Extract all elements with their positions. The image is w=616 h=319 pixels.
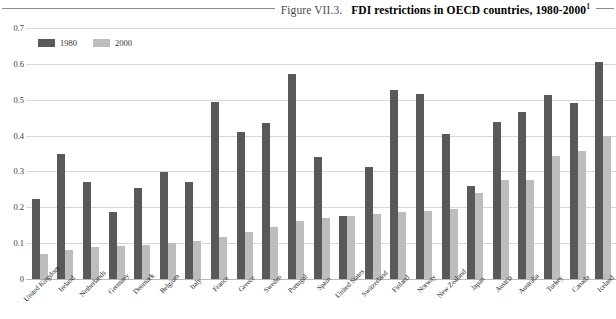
- bar-2000[interactable]: [552, 156, 560, 279]
- bar-1980[interactable]: [185, 182, 193, 279]
- y-axis-tick-label: 0.7: [2, 23, 24, 33]
- legend-item[interactable]: 1980: [38, 38, 77, 48]
- bar-group: [309, 28, 335, 279]
- bar-group: [514, 28, 540, 279]
- bar-1980[interactable]: [442, 134, 450, 279]
- x-label-cell: Netherlands: [77, 280, 103, 319]
- bar-2000[interactable]: [347, 216, 355, 279]
- figure-title-text: FDI restrictions in OECD countries, 1980…: [351, 3, 586, 15]
- bar-1980[interactable]: [518, 112, 526, 279]
- x-label-cell: Turkey: [539, 280, 565, 319]
- bar-2000[interactable]: [296, 221, 304, 279]
- bar-group: [283, 28, 309, 279]
- x-label-cell: Switzerland: [360, 280, 386, 319]
- bar-group: [590, 28, 616, 279]
- bar-1980[interactable]: [339, 216, 347, 279]
- page-title: Figure VII.3. FDI restrictions in OECD c…: [281, 2, 590, 16]
- bar-group: [334, 28, 360, 279]
- bar-2000[interactable]: [270, 227, 278, 279]
- bars-group: [26, 28, 616, 279]
- y-axis-tick-label: 0.4: [2, 131, 24, 141]
- bar-2000[interactable]: [526, 180, 534, 279]
- bar-1980[interactable]: [57, 154, 65, 279]
- legend-item[interactable]: 2000: [93, 38, 132, 48]
- y-axis-tick-label: 0.3: [2, 166, 24, 176]
- x-label-cell: New Zealand: [437, 280, 463, 319]
- x-label-cell: United Kingdom: [26, 280, 52, 319]
- x-label-cell: Iceland: [590, 280, 616, 319]
- bar-2000[interactable]: [373, 214, 381, 279]
- bar-2000[interactable]: [578, 151, 586, 279]
- bar-1980[interactable]: [365, 167, 373, 279]
- bar-1980[interactable]: [237, 132, 245, 279]
- bar-group: [462, 28, 488, 279]
- x-label-cell: Spain: [308, 280, 334, 319]
- x-label-cell: Norway: [411, 280, 437, 319]
- plot-area: 0.70.60.50.40.30.20.10: [26, 28, 616, 279]
- y-axis-tick-label: 0.6: [2, 59, 24, 69]
- title-rule-right: [596, 8, 614, 9]
- x-label-cell: France: [206, 280, 232, 319]
- legend-swatch-icon: [93, 39, 110, 47]
- bar-group: [53, 28, 79, 279]
- bar-2000[interactable]: [193, 241, 201, 279]
- bar-1980[interactable]: [32, 199, 40, 279]
- bar-1980[interactable]: [390, 90, 398, 279]
- bar-2000[interactable]: [245, 232, 253, 279]
- bar-1980[interactable]: [288, 74, 296, 279]
- x-label-cell: United States: [334, 280, 360, 319]
- bar-1980[interactable]: [134, 188, 142, 279]
- bar-1980[interactable]: [160, 172, 168, 279]
- footnote-marker: 1: [586, 2, 590, 11]
- bar-1980[interactable]: [493, 122, 501, 279]
- bar-1980[interactable]: [314, 157, 322, 279]
- bar-group: [27, 28, 53, 279]
- x-axis-tick-labels: United KingdomIrelandNetherlandsGermanyD…: [26, 280, 616, 319]
- bar-1980[interactable]: [211, 102, 219, 279]
- x-label-cell: Greece: [231, 280, 257, 319]
- bar-group: [78, 28, 104, 279]
- legend-swatch-icon: [38, 39, 55, 47]
- bar-2000[interactable]: [450, 209, 458, 279]
- x-label-cell: Sweden: [257, 280, 283, 319]
- bar-1980[interactable]: [416, 94, 424, 279]
- x-label-cell: Italy: [180, 280, 206, 319]
- bar-2000[interactable]: [603, 136, 611, 279]
- y-axis-tick-label: 0: [2, 274, 24, 284]
- legend-label: 2000: [115, 38, 132, 48]
- bar-2000[interactable]: [475, 193, 483, 279]
- bar-1980[interactable]: [83, 182, 91, 279]
- bar-2000[interactable]: [322, 218, 330, 279]
- bar-group: [411, 28, 437, 279]
- bar-group: [386, 28, 412, 279]
- bar-group: [104, 28, 130, 279]
- title-rule-left: [2, 8, 275, 9]
- bar-group: [181, 28, 207, 279]
- chart-container: 0.70.60.50.40.30.20.10 19802000 United K…: [0, 17, 616, 319]
- bar-group: [232, 28, 258, 279]
- bar-group: [206, 28, 232, 279]
- bar-2000[interactable]: [219, 237, 227, 279]
- bar-1980[interactable]: [467, 186, 475, 279]
- bar-1980[interactable]: [570, 103, 578, 279]
- y-axis-tick-label: 0.1: [2, 238, 24, 248]
- chart-legend: 19802000: [38, 38, 132, 48]
- x-label-cell: Austria: [488, 280, 514, 319]
- bar-1980[interactable]: [595, 62, 603, 279]
- y-axis-tick-label: 0.2: [2, 202, 24, 212]
- bar-group: [437, 28, 463, 279]
- legend-label: 1980: [60, 38, 77, 48]
- x-label-cell: Germany: [103, 280, 129, 319]
- x-label-cell: Australia: [513, 280, 539, 319]
- bar-group: [155, 28, 181, 279]
- bar-2000[interactable]: [501, 180, 509, 279]
- bar-1980[interactable]: [262, 123, 270, 279]
- figure-title-band: Figure VII.3. FDI restrictions in OECD c…: [0, 0, 616, 17]
- bar-2000[interactable]: [398, 212, 406, 279]
- x-label-cell: Denmark: [129, 280, 155, 319]
- bar-group: [488, 28, 514, 279]
- x-label-cell: Japan: [462, 280, 488, 319]
- bar-2000[interactable]: [424, 211, 432, 279]
- bar-1980[interactable]: [109, 212, 117, 279]
- bar-1980[interactable]: [544, 95, 552, 279]
